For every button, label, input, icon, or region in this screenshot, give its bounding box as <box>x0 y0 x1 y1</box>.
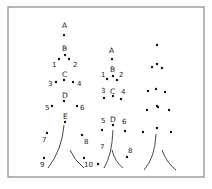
trunk-line-right <box>70 150 84 168</box>
dot-label: 3 <box>48 80 52 88</box>
dot <box>146 109 148 111</box>
dot <box>58 58 60 60</box>
trunk-line-right <box>162 150 176 170</box>
dot <box>156 44 158 46</box>
dot <box>106 78 108 80</box>
dot <box>126 156 128 158</box>
dot-label: A <box>109 46 115 55</box>
dot-label: B <box>110 65 115 74</box>
dot <box>101 129 103 131</box>
dot-label: B <box>62 44 67 53</box>
trunk-line-left <box>48 125 64 168</box>
dot-label: 6 <box>122 118 127 126</box>
dot <box>43 157 45 159</box>
dot <box>51 105 53 107</box>
dot-label: 4 <box>77 80 82 88</box>
dot <box>68 58 70 60</box>
dot-label: D <box>62 91 68 100</box>
dot <box>63 100 65 102</box>
dot <box>76 105 78 107</box>
dot <box>111 58 113 60</box>
dot-label: 8 <box>128 147 132 155</box>
dot <box>116 79 118 81</box>
trunk-line-left <box>144 134 156 170</box>
dot <box>81 134 83 136</box>
dot <box>157 106 159 108</box>
dot <box>161 67 163 69</box>
dot-label: 3 <box>101 87 105 95</box>
dot-label: D <box>110 115 116 124</box>
dot <box>72 81 74 83</box>
dot <box>46 132 48 134</box>
dot <box>64 54 66 56</box>
diagram-frame <box>8 7 204 177</box>
tree-1: AB12C34D56E78910 <box>40 21 93 169</box>
dot <box>64 121 66 123</box>
dot-label: C <box>62 70 67 79</box>
dot-label: 9 <box>40 161 44 169</box>
dot <box>147 90 149 92</box>
dot-label: 7 <box>42 136 46 144</box>
dot <box>103 97 105 99</box>
dot <box>151 66 153 68</box>
dot-label: E <box>63 112 68 121</box>
dot <box>112 75 114 77</box>
dot-label: 1 <box>52 61 56 69</box>
dot-label: A <box>62 21 68 30</box>
diagram-canvas: AB12C34D56E78910AB12C34D5678 <box>0 0 212 189</box>
dot <box>164 91 166 93</box>
dot-label: 5 <box>45 104 49 112</box>
dot-label: 4 <box>121 88 126 96</box>
dot <box>112 124 114 126</box>
dot-label: 5 <box>101 117 105 125</box>
dot-label: 2 <box>73 61 77 69</box>
dot <box>168 109 170 111</box>
tree-2: AB12C34D5678 <box>97 46 133 168</box>
trunk-line-left <box>104 130 113 168</box>
dot <box>155 88 157 90</box>
dot <box>170 131 172 133</box>
dot <box>156 127 158 129</box>
dot-label: 6 <box>80 104 85 112</box>
dot-label: 1 <box>101 71 105 79</box>
dot <box>142 131 144 133</box>
dot <box>63 79 65 81</box>
dot <box>63 34 65 36</box>
dot-to-dot-diagram: AB12C34D56E78910AB12C34D5678 <box>0 0 212 189</box>
dot <box>120 98 122 100</box>
dot <box>83 157 85 159</box>
dot-label: C <box>110 87 115 96</box>
dot <box>124 130 126 132</box>
trunk-line-right <box>112 150 123 168</box>
tree-3 <box>142 44 176 170</box>
dot <box>55 81 57 83</box>
trees-group: AB12C34D56E78910AB12C34D5678 <box>40 21 176 170</box>
dot-label: 10 <box>84 161 93 169</box>
dot-label: 8 <box>84 138 88 146</box>
dot-label: 2 <box>119 71 123 79</box>
dot <box>97 163 99 165</box>
dot <box>156 63 158 65</box>
dot-label: 7 <box>100 143 104 151</box>
